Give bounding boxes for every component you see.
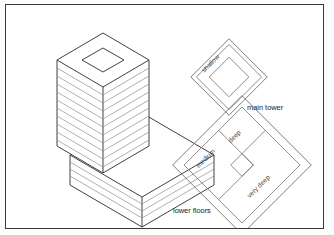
diagram-canvas: shallow main tower medium deep very deep…: [0, 0, 334, 235]
plan-zone-label-very-deep: very deep: [246, 173, 272, 199]
tower-block: [57, 33, 149, 173]
plan-caption-main-tower: main tower: [247, 103, 284, 112]
plan-caption-lower-floors: lower floors: [173, 206, 211, 215]
diagram-frame: shallow main tower medium deep very deep…: [5, 4, 324, 229]
plan-zone-label-shallow: shallow: [200, 53, 221, 74]
plan-zone-label-deep: deep: [227, 128, 243, 144]
diagram-drawing: shallow main tower medium deep very deep…: [6, 5, 323, 228]
